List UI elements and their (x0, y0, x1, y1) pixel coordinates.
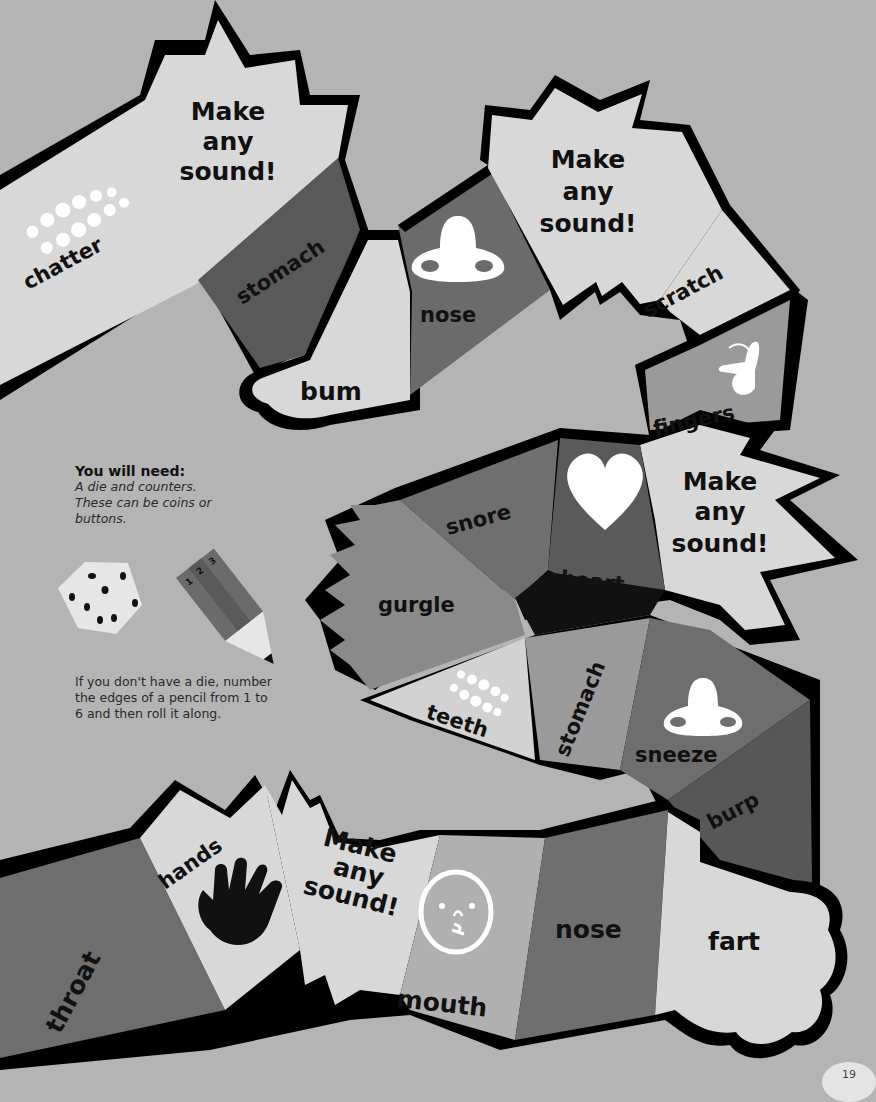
label-sneeze: sneeze (635, 743, 717, 767)
svg-text:Make: Make (191, 97, 266, 126)
svg-text:sound!: sound! (540, 209, 637, 238)
pencil-tip-text: If you don't have a die, number the edge… (75, 674, 275, 722)
svg-text:Make: Make (683, 467, 758, 496)
you-will-need-heading: You will need: (75, 463, 295, 479)
label-nose-1: nose (420, 303, 476, 327)
label-bum: bum (300, 377, 362, 406)
top-track (0, 0, 808, 440)
svg-text:any: any (563, 177, 614, 206)
label-fart: fart (708, 927, 760, 956)
svg-text:Make: Make (551, 145, 626, 174)
die-icon (58, 562, 142, 634)
you-will-need-text: A die and counters. These can be coins o… (75, 479, 215, 527)
label-gurgle: gurgle (378, 593, 455, 617)
label-nose-2: nose (555, 915, 622, 944)
svg-text:any: any (203, 127, 254, 156)
svg-text:sound!: sound! (180, 157, 277, 186)
pencil-icon: 1 2 3 (176, 548, 293, 678)
svg-text:any: any (695, 497, 746, 526)
page-number: 19 (822, 1062, 876, 1102)
svg-text:sound!: sound! (672, 529, 769, 558)
instructions: You will need: A die and counters. These… (75, 463, 295, 527)
